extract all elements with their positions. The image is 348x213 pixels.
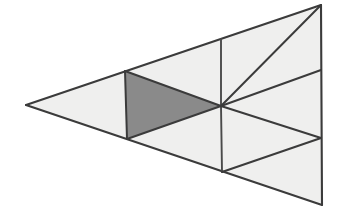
edge-vertical-lower [221,106,222,172]
triangle-diagram [0,0,348,213]
edge-outer-right [321,5,322,205]
